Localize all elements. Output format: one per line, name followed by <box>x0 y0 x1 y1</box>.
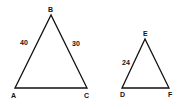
side-label-bc: 30 <box>72 40 80 47</box>
similar-triangles-diagram: A B C 40 30 D E F 24 <box>0 0 185 109</box>
vertex-label-a: A <box>11 92 16 99</box>
vertex-label-d: D <box>120 91 125 98</box>
triangle-abc <box>15 15 87 88</box>
vertex-label-b: B <box>48 6 53 13</box>
side-label-de: 24 <box>122 59 130 66</box>
vertex-label-e: E <box>143 30 148 37</box>
side-label-ab: 40 <box>20 39 28 46</box>
vertex-label-f: F <box>168 91 173 98</box>
vertex-label-c: C <box>84 92 89 99</box>
